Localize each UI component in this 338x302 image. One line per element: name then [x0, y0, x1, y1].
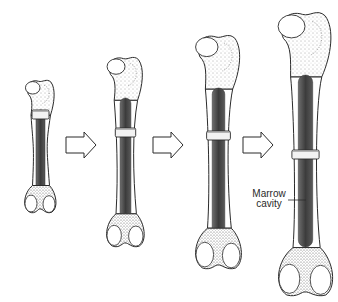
- marrow-cavity: [120, 98, 131, 222]
- marrow-cavity: [298, 75, 312, 247]
- femoral-head: [25, 82, 40, 94]
- growth-arrow-2: [153, 132, 183, 158]
- medial-condyle: [25, 195, 37, 212]
- marrow-label-line-2: cavity: [249, 199, 289, 209]
- femoral-head: [278, 15, 305, 38]
- marrow-cavity-label: Marrow cavity: [249, 189, 289, 209]
- bone-stage-4: [278, 13, 333, 296]
- lateral-condyle: [222, 243, 240, 268]
- medial-condyle: [107, 225, 121, 245]
- lateral-condyle: [129, 226, 143, 246]
- bone-growth-diagram: [0, 0, 338, 302]
- bone-stage-1: [25, 80, 56, 212]
- marrow-cavity: [212, 88, 225, 235]
- femoral-head: [196, 37, 218, 56]
- growth-arrow-1: [66, 132, 96, 158]
- medial-condyle: [196, 242, 214, 267]
- growth-arrow-3: [243, 132, 273, 158]
- lateral-condyle: [43, 196, 55, 213]
- femoral-head: [107, 59, 125, 74]
- lateral-condyle: [310, 265, 331, 294]
- bone-stage-2: [107, 57, 145, 246]
- medial-condyle: [279, 264, 300, 293]
- bone-stage-3: [196, 35, 242, 268]
